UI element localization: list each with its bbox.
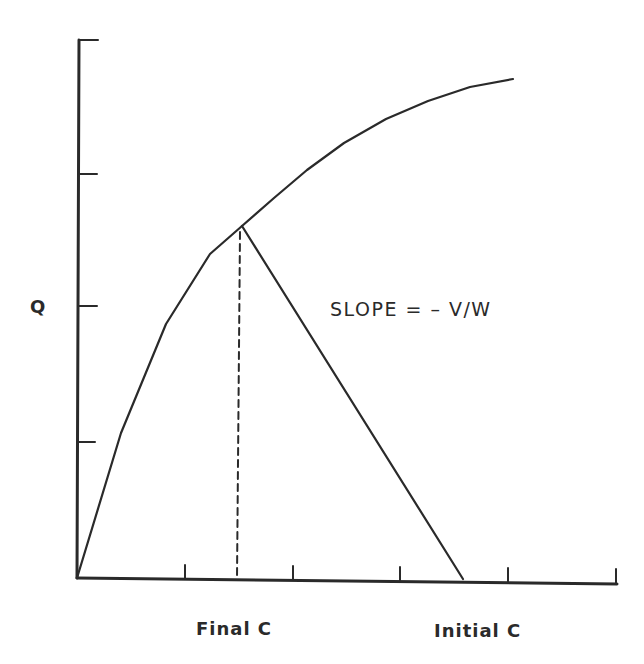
final-c-dashed-line [237, 232, 240, 578]
slope-annotation: SLOPE = – V/W [330, 298, 492, 320]
operating-line [242, 226, 463, 579]
x-axis [77, 578, 617, 584]
chart-canvas [0, 0, 644, 664]
y-axis [77, 40, 79, 578]
y-axis-label: Q [30, 296, 45, 317]
x-label-final-c: Final C [196, 618, 272, 639]
x-label-initial-c: Initial C [434, 620, 521, 641]
equilibrium-curve [77, 79, 513, 578]
